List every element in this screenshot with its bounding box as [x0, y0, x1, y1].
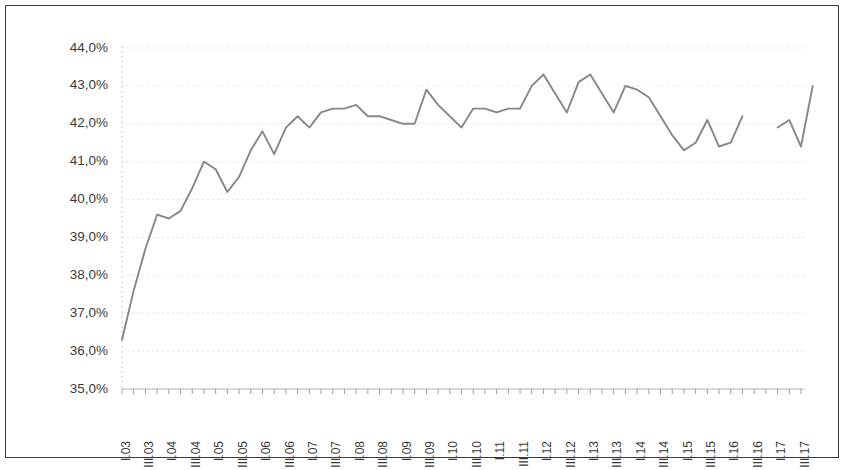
x-axis-tick-label: III.16 — [751, 441, 765, 468]
series-line-segment — [778, 86, 813, 147]
x-axis-tick-label: III.12 — [564, 441, 578, 468]
y-axis-tick-label: 43,0% — [70, 77, 108, 92]
x-axis-tick-label: I.14 — [634, 441, 648, 461]
x-axis-tick-label: I.11 — [493, 441, 507, 460]
x-axis-tick-label: III.17 — [798, 441, 812, 468]
x-axis-tick-label: III.06 — [283, 441, 297, 468]
x-axis-tick-label: I.03 — [119, 441, 133, 461]
y-axis-tick-label: 36,0% — [70, 343, 108, 358]
x-axis-tick-label: III.10 — [470, 441, 484, 468]
y-axis-tick-label: 37,0% — [70, 305, 108, 320]
x-axis-tick-label: I.10 — [446, 441, 460, 461]
x-axis-tick-label: III.09 — [423, 441, 437, 468]
x-axis-tick-label: I.05 — [212, 441, 226, 461]
y-axis-tick-label: 39,0% — [70, 229, 108, 244]
x-axis-tick-label: I.09 — [400, 441, 414, 461]
x-axis-tick-labels: I.03III.03I.04III.04I.05III.05I.06III.06… — [119, 441, 812, 468]
x-axis-tick-label: III.03 — [142, 441, 156, 468]
x-axis-tick-label: III.14 — [657, 441, 671, 468]
gridlines — [122, 48, 805, 389]
x-axis-tick-label: I.04 — [165, 441, 179, 461]
x-axis-tick-label: III.07 — [329, 441, 343, 468]
series-line-segment — [122, 75, 742, 340]
x-axis-tick-label: I.12 — [540, 441, 554, 461]
x-axis-tick-label: I.13 — [587, 441, 601, 461]
x-axis-tick-label: I.15 — [681, 441, 695, 461]
x-axis-tick-label: III.13 — [610, 441, 624, 468]
y-axis-tick-label: 41,0% — [70, 153, 108, 168]
y-axis-tick-label: 40,0% — [70, 191, 108, 206]
x-axis-tick-label: I.16 — [727, 441, 741, 461]
x-axis-tick-label: III.11 — [517, 441, 531, 467]
x-axis-tick-label: I.17 — [774, 441, 788, 461]
y-axis-tick-label: 35,0% — [70, 381, 108, 396]
x-axis-tick-label: III.15 — [704, 441, 718, 468]
x-axis-tick-label: III.05 — [236, 441, 250, 468]
y-axis-tick-labels: 35,0%36,0%37,0%38,0%39,0%40,0%41,0%42,0%… — [70, 40, 108, 396]
x-axis-tick-marks — [122, 389, 801, 394]
x-axis-tick-label: III.04 — [189, 441, 203, 468]
x-axis-tick-label: I.07 — [306, 441, 320, 461]
y-axis-tick-label: 44,0% — [70, 40, 108, 55]
x-axis-tick-label: I.06 — [259, 441, 273, 461]
line-chart: 35,0%36,0%37,0%38,0%39,0%40,0%41,0%42,0%… — [0, 0, 846, 470]
y-axis-tick-label: 38,0% — [70, 267, 108, 282]
x-axis-tick-label: I.08 — [353, 441, 367, 461]
x-axis-tick-label: III.08 — [376, 441, 390, 468]
y-axis-tick-label: 42,0% — [70, 115, 108, 130]
data-series-line — [122, 75, 813, 340]
